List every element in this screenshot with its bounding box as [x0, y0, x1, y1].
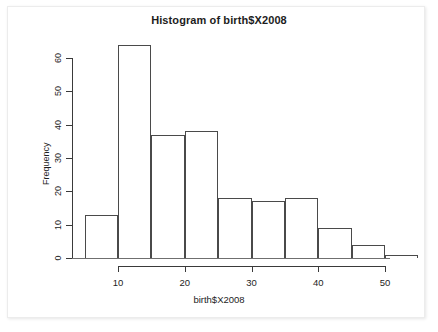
x-axis-tick-label: 50	[365, 277, 405, 288]
histogram-bar	[151, 135, 184, 258]
x-axis-tick-label: 40	[298, 277, 338, 288]
histogram-bar	[218, 198, 251, 258]
x-axis-title: birth$X2008	[0, 294, 438, 305]
y-axis-tick-label: 50	[53, 86, 63, 96]
x-axis-tick-label: 10	[98, 277, 138, 288]
histogram-screenshot: Histogram of birth$X2008 0102030405060 F…	[0, 0, 438, 332]
y-axis-tick	[66, 91, 72, 92]
histogram-bar	[85, 215, 118, 258]
y-axis-title-wrap: Frequency	[30, 0, 44, 332]
y-axis-tick	[66, 225, 72, 226]
plot-area: 0102030405060 Frequency 1020304050	[0, 0, 438, 332]
y-axis-title: Frequency	[41, 142, 51, 185]
y-axis-tick	[66, 58, 72, 59]
histogram-bar	[285, 198, 318, 258]
x-axis-tick	[252, 266, 253, 272]
y-axis-tick-label: 60	[53, 53, 63, 63]
y-axis-tick	[66, 125, 72, 126]
histogram-bar	[385, 255, 418, 258]
x-axis-tick	[185, 266, 186, 272]
x-axis-tick	[385, 266, 386, 272]
histogram-bar	[118, 45, 151, 258]
y-axis-tick-label: 30	[53, 153, 63, 163]
y-axis-line	[72, 58, 73, 258]
histogram-bar	[318, 228, 351, 258]
histogram-bar	[252, 201, 285, 258]
x-axis-tick-label: 30	[232, 277, 272, 288]
plot-baseline	[72, 258, 390, 259]
x-axis-tick	[318, 266, 319, 272]
x-axis-tick	[118, 266, 119, 272]
y-axis-tick-label: 0	[53, 255, 63, 260]
y-axis-tick	[66, 191, 72, 192]
y-axis-tick	[66, 158, 72, 159]
y-axis-tick-label: 20	[53, 186, 63, 196]
histogram-bar	[352, 245, 385, 258]
histogram-bar	[185, 131, 218, 258]
y-axis-tick-label: 10	[53, 220, 63, 230]
x-axis-tick-label: 20	[165, 277, 205, 288]
y-axis-tick-label: 40	[53, 120, 63, 130]
